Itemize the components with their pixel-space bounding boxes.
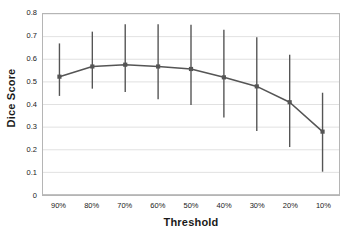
data-point-marker: [320, 130, 324, 134]
y-axis-tick-label: 0.4: [15, 101, 37, 109]
data-point-marker: [57, 75, 61, 79]
data-point-marker: [288, 100, 292, 104]
x-axis-tick-labels: 90%80%70%60%50%40%30%20%10%: [42, 201, 340, 215]
y-axis-tick-label: 0.3: [15, 124, 37, 132]
data-point-marker: [123, 63, 127, 67]
y-axis-tick-label: 0.1: [15, 169, 37, 177]
data-point-marker: [255, 84, 259, 88]
y-axis-tick-label: 0: [15, 192, 37, 200]
dice-score-threshold-chart: Dice Score 00.10.20.30.40.50.60.70.8 90%…: [0, 0, 354, 238]
y-axis-tick-label: 0.7: [15, 32, 37, 40]
data-point-marker: [189, 67, 193, 71]
y-axis-tick-labels: 00.10.20.30.40.50.60.70.8: [17, 0, 41, 238]
data-point-marker: [156, 64, 160, 68]
data-point-marker: [90, 64, 94, 68]
x-axis-tick-label: 10%: [303, 201, 343, 210]
y-axis-tick-label: 0.5: [15, 78, 37, 86]
plot-svg: [43, 14, 339, 195]
y-axis-tick-label: 0.6: [15, 55, 37, 63]
y-axis-tick-label: 0.2: [15, 147, 37, 155]
data-point-marker: [222, 75, 226, 79]
y-axis-tick-label: 0.8: [15, 9, 37, 17]
plot-area: [42, 13, 340, 196]
x-axis-title: Threshold: [42, 216, 340, 228]
